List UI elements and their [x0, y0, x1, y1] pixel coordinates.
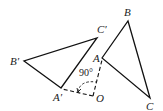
- label-c-prime: C′: [97, 23, 107, 35]
- angle-arrow-icon: [77, 88, 81, 92]
- label-o: O: [96, 92, 104, 104]
- angle-label: 90°: [79, 67, 93, 78]
- label-b: B: [124, 6, 131, 18]
- triangle-a-prime-b-prime-c-prime: [24, 38, 97, 88]
- label-b-prime: B′: [10, 55, 20, 67]
- dashed-segment-oa: [93, 60, 102, 96]
- label-a: A: [92, 52, 100, 64]
- label-c: C: [146, 100, 154, 111]
- triangle-abc: [102, 21, 150, 98]
- rotation-diagram: A B C A′ B′ C′ O 90°: [0, 0, 163, 111]
- label-a-prime: A′: [52, 91, 63, 103]
- angle-arc: [78, 82, 96, 92]
